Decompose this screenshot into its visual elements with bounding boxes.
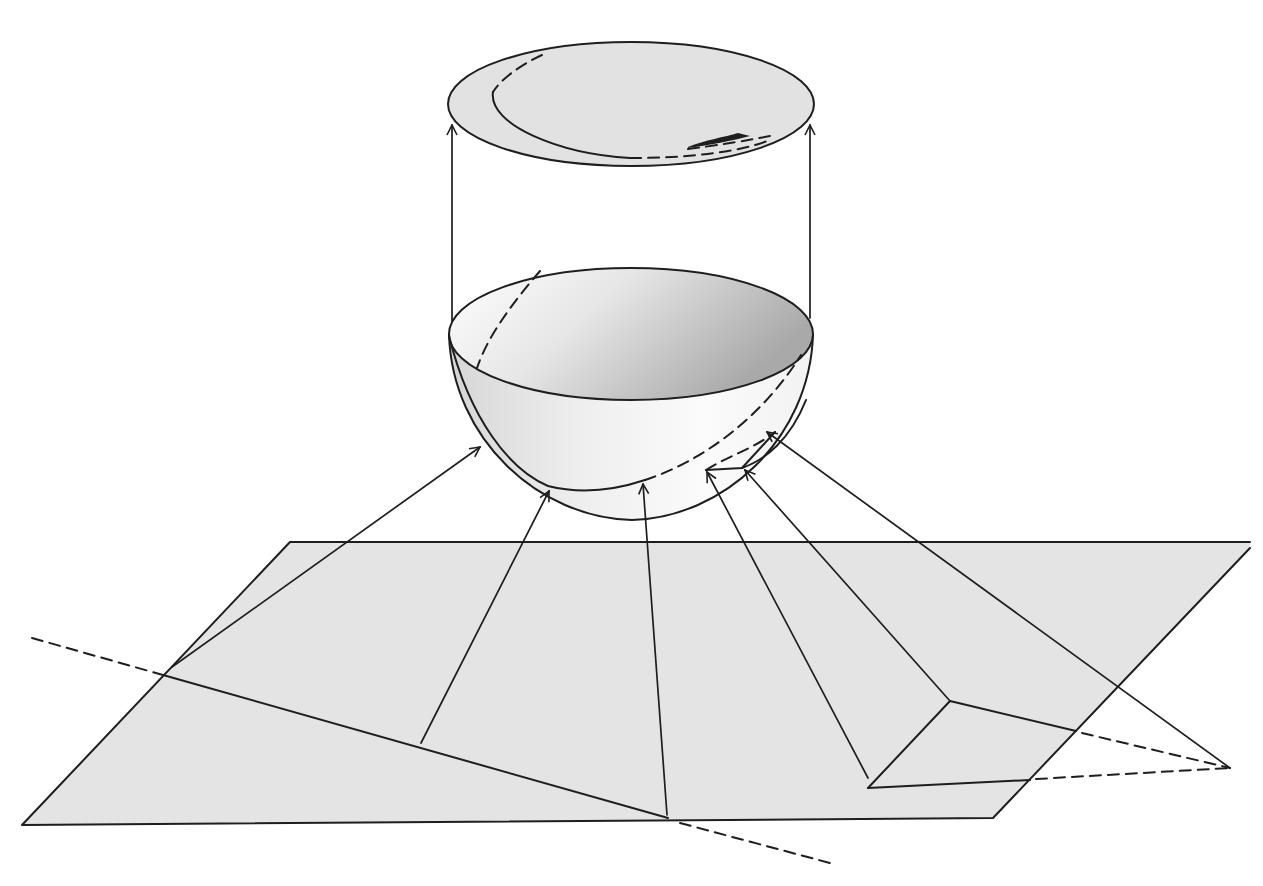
base-plane bbox=[22, 542, 1250, 825]
line-a-dashed-right bbox=[680, 823, 830, 863]
hemisphere bbox=[449, 268, 813, 520]
plane-surface bbox=[22, 542, 1250, 825]
line-b-dashed-lower bbox=[1036, 768, 1230, 779]
projection-disc bbox=[448, 42, 814, 166]
line-b-dashed-upper bbox=[1082, 733, 1230, 768]
projection-diagram bbox=[0, 0, 1263, 886]
line-a-dashed-left bbox=[32, 638, 163, 675]
